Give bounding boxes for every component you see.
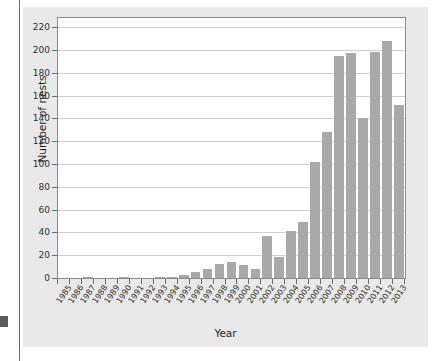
bar-2009 <box>346 53 356 278</box>
y-tick-label-0: 0 <box>44 274 50 283</box>
y-tick-label-180: 180 <box>33 68 50 77</box>
y-tick-label-140: 140 <box>33 114 50 123</box>
x-axis-title: Year <box>23 327 428 339</box>
page-margin-rule <box>19 0 20 361</box>
y-axis-tick-labels: 020406080100120140160180200220 <box>23 17 50 279</box>
y-tick-label-220: 220 <box>33 23 50 32</box>
bar-1987 <box>83 277 93 278</box>
bar-2011 <box>370 52 380 278</box>
bar-2012 <box>382 41 392 278</box>
bar-1990 <box>119 277 129 278</box>
y-tick-label-80: 80 <box>39 182 50 191</box>
bar-1995 <box>179 275 189 278</box>
figure-panel: Number of nests 020406080100120140160180… <box>23 7 428 347</box>
bar-1996 <box>191 272 201 278</box>
bar-2005 <box>298 222 308 278</box>
bar-2006 <box>310 162 320 278</box>
bar-2004 <box>286 231 296 278</box>
bar-2003 <box>274 257 284 278</box>
y-tick-label-160: 160 <box>33 91 50 100</box>
bar-1998 <box>215 264 225 278</box>
bar-1999 <box>227 262 237 278</box>
y-tick-label-100: 100 <box>33 159 50 168</box>
y-tick-label-40: 40 <box>39 228 50 237</box>
bar-2013 <box>394 105 404 278</box>
bar-2001 <box>251 269 261 278</box>
gridline-220 <box>58 27 405 28</box>
bar-2007 <box>322 132 332 278</box>
bar-2002 <box>262 236 272 278</box>
bar-2008 <box>334 56 344 278</box>
gridline-200 <box>58 50 405 51</box>
y-tick-label-20: 20 <box>39 251 50 260</box>
bar-2000 <box>239 265 249 278</box>
plot-inner <box>58 18 405 278</box>
bar-2010 <box>358 118 368 278</box>
y-tick-label-120: 120 <box>33 137 50 146</box>
page-edge-mark <box>0 316 8 327</box>
y-tick-label-200: 200 <box>33 45 50 54</box>
bar-1997 <box>203 269 213 278</box>
bar-1993 <box>155 277 165 278</box>
plot-area <box>57 17 406 279</box>
x-axis-tick-labels: 1985198619871988198919901991199219931994… <box>57 284 406 324</box>
y-tick-label-60: 60 <box>39 205 50 214</box>
bar-1994 <box>167 277 177 278</box>
